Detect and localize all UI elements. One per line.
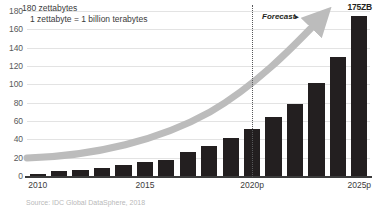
y-axis-tick-label: 60 [0, 117, 23, 126]
bar [180, 152, 196, 176]
bar [201, 146, 217, 176]
bar [308, 83, 324, 176]
gridline [27, 11, 370, 12]
bar [330, 57, 346, 176]
gridline [27, 66, 370, 67]
source-note: Source: IDC Global DataSphere, 2018 [26, 199, 145, 206]
forecast-label: Forecast▸ [262, 13, 299, 21]
bar [265, 117, 281, 176]
x-axis-tick-label: 2025p [347, 181, 371, 190]
y-axis-tick-label: 100 [0, 80, 23, 89]
chart-title: 180 zettabytes [22, 4, 77, 13]
bar [137, 162, 153, 176]
forecast-divider-line [252, 5, 253, 177]
final-value-callout: 175ZB [347, 3, 372, 12]
bar [223, 138, 239, 176]
x-axis-tick-label: 2010 [28, 181, 47, 190]
bar [287, 104, 303, 176]
chart-container: Forecast▸ 020406080100120140160180 20102… [0, 0, 375, 209]
y-axis-tick-label: 120 [0, 62, 23, 71]
y-axis-tick-label: 20 [0, 154, 23, 163]
x-axis-baseline [25, 176, 372, 178]
x-axis-tick-label: 2020p [240, 181, 264, 190]
x-axis-tick-label: 2015 [135, 181, 154, 190]
y-axis-tick-label: 140 [0, 44, 23, 53]
y-axis-tick-label: 0 [0, 172, 23, 181]
y-axis-tick-label: 180 [0, 7, 23, 16]
y-axis-tick-label: 80 [0, 99, 23, 108]
forecast-arrow-icon: ▸ [295, 13, 299, 20]
bar [158, 160, 174, 177]
gridline [27, 29, 370, 30]
y-axis-tick-label: 160 [0, 25, 23, 34]
forecast-label-text: Forecast [262, 12, 295, 21]
bar [94, 168, 110, 176]
chart-subtitle: 1 zettabyte = 1 billion terabytes [30, 15, 147, 24]
plot-area [27, 11, 370, 176]
gridline [27, 48, 370, 49]
y-axis-tick-label: 40 [0, 135, 23, 144]
bar [351, 16, 367, 176]
bar [115, 165, 131, 176]
